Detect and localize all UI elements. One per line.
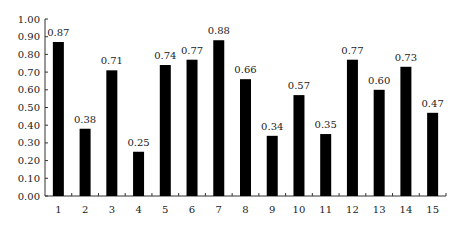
bar-value-label: 0.87 — [47, 27, 69, 38]
bar — [213, 40, 224, 196]
bar — [106, 70, 117, 196]
bar-value-label: 0.25 — [127, 137, 149, 148]
x-tick-label: 15 — [426, 204, 439, 215]
y-tick-label: 0.80 — [18, 49, 40, 60]
bar — [320, 134, 331, 196]
y-tick-label: 0.10 — [18, 173, 40, 184]
y-tick-label: 0.40 — [18, 120, 40, 131]
bar-value-label: 0.35 — [315, 119, 337, 130]
bar-value-label: 0.88 — [208, 25, 230, 36]
x-axis: 123456789101112131415 — [45, 193, 446, 215]
x-tick-label: 2 — [82, 204, 88, 215]
x-tick-label: 9 — [269, 204, 275, 215]
bar — [240, 79, 251, 196]
x-tick-label: 10 — [293, 204, 306, 215]
y-tick-label: 0.60 — [18, 84, 40, 95]
bar — [427, 113, 438, 196]
x-tick-label: 14 — [400, 204, 413, 215]
bar — [347, 60, 358, 196]
bar-value-label: 0.57 — [288, 80, 310, 91]
x-tick-label: 7 — [216, 204, 222, 215]
chart-canvas: 0.000.100.200.300.400.500.600.700.800.90… — [0, 0, 461, 226]
x-tick-label: 1 — [55, 204, 61, 215]
y-tick-label: 0.30 — [18, 137, 40, 148]
x-tick-label: 13 — [373, 204, 386, 215]
x-tick-label: 3 — [109, 204, 115, 215]
bar — [133, 152, 144, 196]
bar-value-label: 0.74 — [154, 50, 176, 61]
y-tick-label: 0.70 — [18, 67, 40, 78]
bar — [267, 136, 278, 196]
bar-value-label: 0.66 — [234, 64, 256, 75]
bar-chart: 0.000.100.200.300.400.500.600.700.800.90… — [0, 0, 461, 226]
bar — [187, 60, 198, 196]
y-tick-label: 1.00 — [18, 14, 40, 25]
bar-value-label: 0.77 — [341, 45, 363, 56]
y-tick-label: 0.20 — [18, 155, 40, 166]
bar-value-label: 0.38 — [74, 114, 96, 125]
y-tick-label: 0.50 — [18, 102, 40, 113]
bar-value-label: 0.77 — [181, 45, 203, 56]
y-tick-label: 0.00 — [18, 191, 40, 202]
x-tick-label: 12 — [346, 204, 359, 215]
bar-value-label: 0.34 — [261, 121, 283, 132]
bar — [53, 42, 64, 196]
x-tick-label: 4 — [135, 204, 141, 215]
x-tick-label: 8 — [242, 204, 248, 215]
x-tick-label: 5 — [162, 204, 168, 215]
bar-value-label: 0.71 — [101, 55, 123, 66]
x-tick-label: 6 — [189, 204, 195, 215]
bar — [160, 65, 171, 196]
x-tick-label: 11 — [319, 204, 332, 215]
bar — [293, 95, 304, 196]
y-tick-label: 0.90 — [18, 31, 40, 42]
bar-value-label: 0.73 — [395, 52, 417, 63]
bar — [80, 129, 91, 196]
bar-value-label: 0.60 — [368, 75, 390, 86]
bar — [374, 90, 385, 196]
bar — [400, 67, 411, 196]
bar-value-label: 0.47 — [422, 98, 444, 109]
y-axis: 0.000.100.200.300.400.500.600.700.800.90… — [18, 14, 48, 202]
